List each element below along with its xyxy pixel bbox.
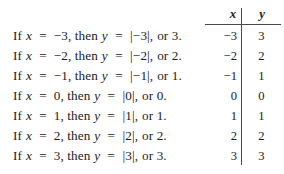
column-header-x: x [203,7,243,22]
statement-then: then [67,88,90,103]
statement-or: or [157,28,168,43]
statement-variable-x: x [25,88,32,103]
statement-x-value: −1, [54,68,72,83]
statement-variable-y: y [101,48,108,63]
statement-absolute-expression: |−3|, [130,28,154,43]
statement-equals-2: = [112,48,127,63]
statement-variable-x: x [25,48,32,63]
statement-variable-x: x [25,68,32,83]
statement-prefix: If [13,88,22,103]
statement-result: 0. [157,88,167,103]
statement-variable-x: x [25,28,32,43]
statement-then: then [67,108,90,123]
table-row: 3 3 [203,146,281,166]
statement-equals-1: = [36,68,51,83]
statement-equals-2: = [112,28,127,43]
statement-then: then [75,48,98,63]
statement-x-value: 1, [54,108,64,123]
statement-then: then [67,128,90,143]
statement-equals-2: = [104,148,119,163]
statement-result: 3. [172,28,182,43]
statement-prefix: If [13,68,22,83]
cell-x: 0 [203,86,242,106]
statement-result: 1. [157,108,167,123]
list-item: If x = 1, then y = |1|, or 1. [13,106,195,126]
statement-absolute-expression: |1|, [122,108,139,123]
statement-equals-1: = [36,48,51,63]
statement-prefix: If [13,148,22,163]
cell-y: 0 [242,86,281,106]
table-row: −3 3 [203,26,281,46]
statement-equals-1: = [36,108,51,123]
statement-result: 2. [157,128,167,143]
statement-then: then [75,68,98,83]
cell-y: 3 [242,26,281,46]
statement-variable-x: x [25,128,32,143]
statement-equals-1: = [36,28,51,43]
cell-y: 2 [242,126,281,146]
statement-absolute-expression: |2|, [122,128,139,143]
statement-equals-2: = [104,108,119,123]
cell-x: −2 [203,46,242,66]
statement-x-value: −2, [54,48,72,63]
statement-result: 1. [172,68,182,83]
table-header-rule [205,24,281,25]
list-item: If x = 3, then y = |3|, or 3. [13,146,195,166]
statement-or: or [142,108,153,123]
list-item: If x = −1, then y = |−1|, or 1. [13,66,195,86]
statement-variable-x: x [25,108,32,123]
table-row: 0 0 [203,86,281,106]
table-row: 1 1 [203,106,281,126]
cell-y: 1 [242,106,281,126]
statement-equals-2: = [112,68,127,83]
table-body: −3 3 −2 2 −1 1 0 0 1 1 2 2 [203,26,281,166]
column-header-y: y [243,7,281,22]
statement-or: or [142,128,153,143]
statement-x-value: −3, [54,28,72,43]
statement-equals-1: = [36,88,51,103]
statement-variable-x: x [25,148,32,163]
cell-y: 3 [242,146,281,166]
statement-equals-2: = [104,88,119,103]
list-item: If x = 2, then y = |2|, or 2. [13,126,195,146]
statement-prefix: If [13,128,22,143]
cell-y: 1 [242,66,281,86]
list-item: If x = −3, then y = |−3|, or 3. [13,26,195,46]
statement-or: or [157,48,168,63]
statement-equals-1: = [36,148,51,163]
statement-result: 2. [172,48,182,63]
xy-value-table: x y −3 3 −2 2 −1 1 0 0 1 1 [203,5,281,167]
cell-y: 2 [242,46,281,66]
statement-then: then [67,148,90,163]
statement-x-value: 0, [54,88,64,103]
statement-variable-y: y [94,148,101,163]
list-item: If x = −2, then y = |−2|, or 2. [13,46,195,66]
statement-absolute-expression: |3|, [122,148,139,163]
statement-variable-y: y [101,68,108,83]
table-row: 2 2 [203,126,281,146]
cell-x: 3 [203,146,242,166]
cell-x: 2 [203,126,242,146]
statement-absolute-expression: |−2|, [130,48,154,63]
statement-variable-y: y [101,28,108,43]
statement-equals-2: = [104,128,119,143]
statement-variable-y: y [94,108,101,123]
statement-prefix: If [13,108,22,123]
statement-prefix: If [13,48,22,63]
statement-or: or [157,68,168,83]
statement-or: or [142,148,153,163]
statement-variable-y: y [94,128,101,143]
cell-x: 1 [203,106,242,126]
statement-result: 3. [157,148,167,163]
table-header-row: x y [203,5,281,24]
statement-variable-y: y [94,88,101,103]
statement-x-value: 3, [54,148,64,163]
cell-x: −3 [203,26,242,46]
cell-x: −1 [203,66,242,86]
statement-then: then [75,28,98,43]
statement-prefix: If [13,28,22,43]
statement-absolute-expression: |−1|, [130,68,154,83]
table-row: −1 1 [203,66,281,86]
absolute-value-figure: If x = −3, then y = |−3|, or 3. If x = −… [0,0,284,174]
statement-absolute-expression: |0|, [122,88,139,103]
